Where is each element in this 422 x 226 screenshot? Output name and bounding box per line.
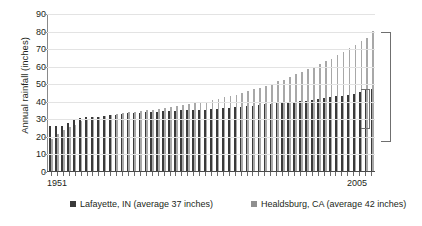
x-tick-mark: [264, 172, 265, 176]
x-tick-mark: [217, 172, 218, 176]
bar-healdsburg: [111, 115, 113, 171]
x-tick-mark: [187, 172, 188, 176]
lafayette-range-bracket: [361, 89, 370, 129]
x-tick-mark: [69, 172, 70, 176]
y-tick-mark: [44, 14, 47, 15]
x-tick-mark: [75, 172, 76, 176]
legend-item-lafayette: Lafayette, IN (average 37 inches): [70, 199, 213, 209]
bar-healdsburg: [116, 114, 118, 171]
chart-legend: Lafayette, IN (average 37 inches) Healds…: [70, 199, 400, 209]
x-tick-mark: [134, 172, 135, 176]
x-tick-mark: [175, 172, 176, 176]
x-tick-mark: [359, 172, 360, 176]
bar-healdsburg: [230, 96, 232, 171]
gridline: [47, 32, 375, 33]
x-tick-mark: [252, 172, 253, 176]
bar-healdsburg: [128, 112, 130, 171]
x-tick-mark: [104, 172, 105, 176]
bar-healdsburg: [99, 117, 101, 171]
gridline: [47, 119, 375, 120]
gridline: [47, 67, 375, 68]
x-tick-mark: [247, 172, 248, 176]
x-tick-mark: [371, 172, 372, 176]
bar-healdsburg: [224, 97, 226, 171]
bar-healdsburg: [277, 81, 279, 171]
x-tick-mark: [146, 172, 147, 176]
x-tick-mark: [51, 172, 52, 176]
legend-swatch-icon-lafayette: [70, 201, 76, 207]
x-tick-mark: [282, 172, 283, 176]
bar-healdsburg: [236, 95, 238, 171]
bar-healdsburg: [93, 117, 95, 171]
x-tick-mark: [199, 172, 200, 176]
x-axis-tick-marks: [47, 172, 375, 177]
x-tick-mark: [63, 172, 64, 176]
x-tick-mark: [312, 172, 313, 176]
bar-healdsburg: [265, 86, 267, 171]
bar-healdsburg: [122, 113, 124, 171]
y-tick-mark: [44, 49, 47, 50]
bar-healdsburg: [182, 105, 184, 171]
gridline: [47, 137, 375, 138]
bar-healdsburg: [164, 108, 166, 171]
gridline: [47, 84, 375, 85]
x-tick-mark: [211, 172, 212, 176]
x-tick-mark: [288, 172, 289, 176]
bar-healdsburg: [212, 100, 214, 171]
bar-pair: [369, 14, 375, 171]
bar-healdsburg: [218, 99, 220, 171]
bar-group-container: [48, 14, 375, 171]
bar-healdsburg: [283, 80, 285, 171]
x-tick-mark: [152, 172, 153, 176]
y-tick-mark: [44, 84, 47, 85]
x-tick-mark: [276, 172, 277, 176]
bar-healdsburg: [69, 127, 71, 171]
x-tick-mark: [270, 172, 271, 176]
x-tick-mark: [335, 172, 336, 176]
x-tick-mark: [193, 172, 194, 176]
x-axis-end-label: 2005: [347, 178, 367, 188]
bar-healdsburg: [105, 116, 107, 171]
x-tick-mark: [324, 172, 325, 176]
gridline: [47, 14, 375, 15]
bar-healdsburg: [87, 119, 89, 171]
y-tick-mark: [44, 119, 47, 120]
y-axis-tick-labels: 0102030405060708090: [26, 14, 46, 172]
x-tick-mark: [81, 172, 82, 176]
x-tick-mark: [341, 172, 342, 176]
gridline: [47, 49, 375, 50]
plot-area: [47, 14, 375, 172]
bar-healdsburg: [81, 121, 83, 171]
bar-healdsburg: [259, 88, 261, 171]
x-tick-mark: [57, 172, 58, 176]
x-tick-mark: [181, 172, 182, 176]
x-tick-mark: [170, 172, 171, 176]
x-tick-mark: [365, 172, 366, 176]
y-tick-mark: [44, 102, 47, 103]
x-tick-mark: [87, 172, 88, 176]
y-tick-mark: [44, 32, 47, 33]
bar-healdsburg: [241, 93, 243, 171]
x-tick-mark: [300, 172, 301, 176]
x-axis-start-label: 1951: [47, 178, 67, 188]
x-tick-mark: [318, 172, 319, 176]
x-tick-mark: [164, 172, 165, 176]
x-tick-mark: [223, 172, 224, 176]
bar-healdsburg: [57, 134, 59, 171]
bar-healdsburg: [295, 74, 297, 171]
bar-healdsburg: [289, 77, 291, 171]
x-tick-mark: [122, 172, 123, 176]
bar-healdsburg: [75, 125, 77, 171]
bar-healdsburg: [355, 45, 357, 171]
x-tick-mark: [92, 172, 93, 176]
bar-healdsburg: [176, 106, 178, 171]
x-tick-mark: [98, 172, 99, 176]
healdsburg-range-bracket: [381, 32, 391, 143]
bar-healdsburg: [247, 91, 249, 171]
x-tick-mark: [294, 172, 295, 176]
x-tick-mark: [205, 172, 206, 176]
x-tick-mark: [306, 172, 307, 176]
rainfall-bar-chart: Annual rainfall (inches) 010203040506070…: [0, 0, 422, 226]
bar-healdsburg: [343, 52, 345, 171]
bar-healdsburg: [271, 84, 273, 171]
